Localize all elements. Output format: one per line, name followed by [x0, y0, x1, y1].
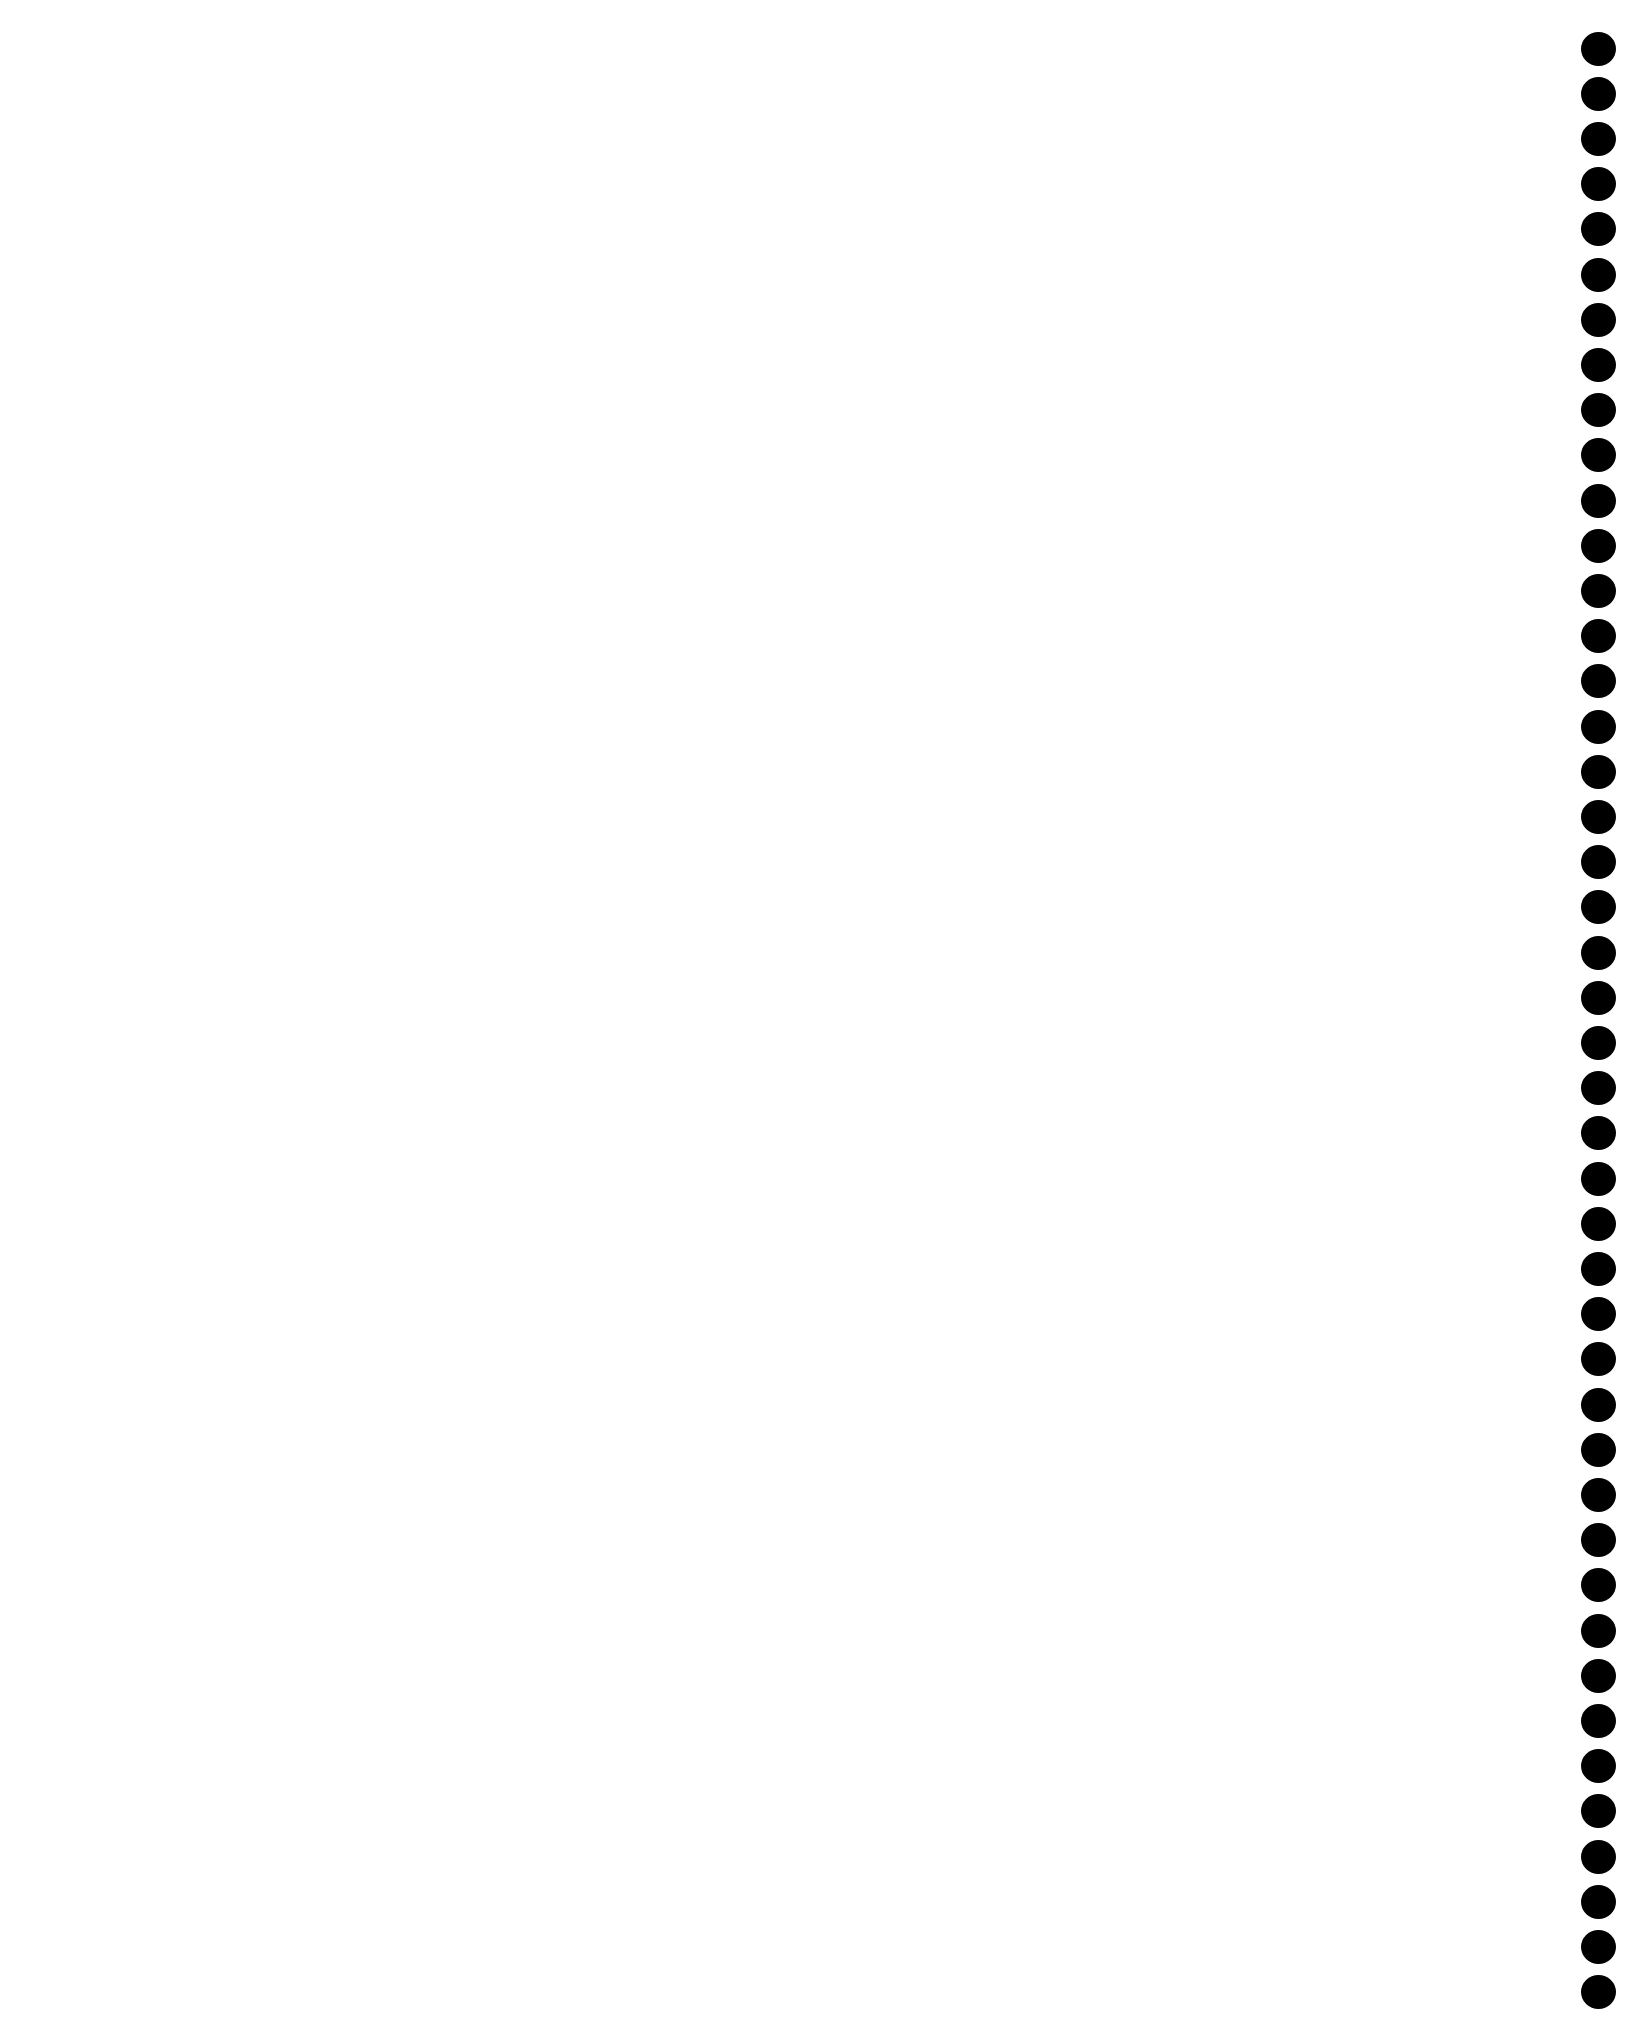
- binding-hole-icon: [1581, 303, 1616, 337]
- binding-hole-icon: [1581, 1614, 1616, 1648]
- binding-holes-column: [1581, 0, 1617, 2041]
- binding-hole-icon: [1581, 1207, 1616, 1241]
- binding-hole-icon: [1581, 981, 1616, 1015]
- binding-hole-icon: [1581, 1930, 1616, 1964]
- binding-hole-icon: [1581, 258, 1616, 292]
- binding-hole-icon: [1581, 619, 1616, 653]
- binding-hole-icon: [1581, 1568, 1616, 1602]
- binding-hole-icon: [1581, 212, 1616, 246]
- binding-hole-icon: [1581, 800, 1616, 834]
- binding-hole-icon: [1581, 890, 1616, 924]
- binding-hole-icon: [1581, 755, 1616, 789]
- binding-hole-icon: [1581, 1749, 1616, 1783]
- binding-hole-icon: [1581, 1794, 1616, 1828]
- binding-hole-icon: [1581, 32, 1616, 66]
- binding-hole-icon: [1581, 574, 1616, 608]
- binding-hole-icon: [1581, 1704, 1616, 1738]
- binding-hole-icon: [1581, 1116, 1616, 1150]
- binding-hole-icon: [1581, 1885, 1616, 1919]
- binding-hole-icon: [1581, 1523, 1616, 1557]
- binding-hole-icon: [1581, 77, 1616, 111]
- binding-hole-icon: [1581, 122, 1616, 156]
- binding-hole-icon: [1581, 1162, 1616, 1196]
- binding-hole-icon: [1581, 1297, 1616, 1331]
- binding-hole-icon: [1581, 710, 1616, 744]
- binding-hole-icon: [1581, 1026, 1616, 1060]
- binding-hole-icon: [1581, 167, 1616, 201]
- binding-hole-icon: [1581, 664, 1616, 698]
- binding-hole-icon: [1581, 1659, 1616, 1693]
- binding-hole-icon: [1581, 1252, 1616, 1286]
- binding-hole-icon: [1581, 1433, 1616, 1467]
- binding-hole-icon: [1581, 845, 1616, 879]
- binding-hole-icon: [1581, 1840, 1616, 1874]
- binding-hole-icon: [1581, 484, 1616, 518]
- blank-page: [0, 0, 1636, 2041]
- binding-hole-icon: [1581, 1071, 1616, 1105]
- binding-hole-icon: [1581, 529, 1616, 563]
- binding-hole-icon: [1581, 348, 1616, 382]
- binding-hole-icon: [1581, 1342, 1616, 1376]
- binding-hole-icon: [1581, 438, 1616, 472]
- binding-hole-icon: [1581, 1478, 1616, 1512]
- binding-hole-icon: [1581, 393, 1616, 427]
- binding-hole-icon: [1581, 1975, 1616, 2009]
- binding-hole-icon: [1581, 1388, 1616, 1422]
- binding-hole-icon: [1581, 936, 1616, 970]
